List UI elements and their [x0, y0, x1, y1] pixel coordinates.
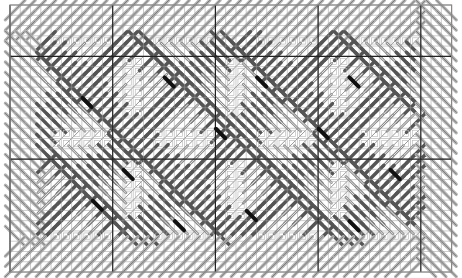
border-stitch-outline	[5, 237, 25, 257]
motif-dark-stitch	[47, 42, 65, 60]
border-stitch-outline	[437, 11, 457, 31]
motif-dark-stitch	[109, 145, 127, 163]
border-stitch-outline	[139, 257, 159, 277]
border-stitch-outline	[129, 257, 149, 277]
accent-stitch	[349, 221, 358, 230]
motif-dark-stitch	[222, 217, 240, 235]
motif-dark-stitch	[119, 114, 137, 132]
motif-dark-stitch	[170, 165, 188, 183]
border-stitch-outline	[5, 0, 25, 20]
motif-dark-stitch	[37, 114, 55, 132]
motif-dark-stitch	[88, 93, 106, 111]
motif-dark-stitch	[324, 124, 342, 142]
motif-dark-stitch	[345, 134, 363, 152]
accent-stitch	[175, 221, 184, 230]
motif-dark-stitch	[150, 217, 168, 235]
motif-dark-stitch	[386, 175, 404, 193]
motif-dark-stitch	[47, 52, 65, 70]
motif-dark-stitch	[78, 73, 96, 91]
border-stitch-outline	[437, 247, 457, 267]
border-stitch-outline	[108, 257, 128, 277]
motif-dark-stitch	[78, 83, 96, 101]
border-stitch-outline	[437, 144, 457, 164]
border-stitch-outline	[334, 257, 354, 277]
motif-dark-stitch	[355, 217, 373, 235]
border-stitch-outline	[159, 257, 179, 277]
motif-dark-stitch	[109, 104, 127, 122]
motif-dark-stitch	[263, 63, 281, 81]
border-stitch-outline	[88, 257, 108, 277]
border-stitch-outline	[437, 72, 457, 92]
motif-dark-stitch	[68, 73, 86, 91]
motif-dark-stitch	[201, 206, 219, 224]
border-stitch-outline	[16, 257, 36, 277]
motif-dark-stitch	[252, 114, 270, 132]
border-stitch-outline	[437, 41, 457, 61]
border-stitch-outline	[385, 257, 405, 277]
stitch-chart	[0, 0, 462, 278]
border-stitch-outline	[355, 257, 375, 277]
border-stitch-outline	[180, 257, 200, 277]
motif-dark-stitch	[314, 145, 332, 163]
motif-dark-stitch	[355, 145, 373, 163]
motif-dark-stitch	[314, 104, 332, 122]
border-stitch-outline	[303, 257, 323, 277]
border-stitch-outline	[26, 257, 46, 277]
motif-dark-stitch	[160, 165, 178, 183]
border-stitch-outline	[437, 62, 457, 82]
border-stitch-outline	[67, 257, 87, 277]
border-stitch-outline	[139, 21, 159, 41]
motif-dark-stitch	[211, 206, 229, 224]
motif-dark-stitch	[324, 114, 342, 132]
motif-dark-stitch	[283, 83, 301, 101]
border-stitch-outline	[437, 175, 457, 195]
border-stitch-outline	[437, 257, 457, 277]
motif-dark-stitch	[293, 83, 311, 101]
motif-dark-stitch	[304, 93, 322, 111]
motif-dark-stitch	[201, 196, 219, 214]
motif-dark-stitch	[88, 83, 106, 101]
border-stitch-outline	[262, 257, 282, 277]
border-stitch-outline	[118, 257, 138, 277]
border-stitch-outline	[355, 21, 375, 41]
motif-dark-stitch	[263, 52, 281, 70]
border-stitch-outline	[437, 83, 457, 103]
border-stitch-outline	[437, 93, 457, 113]
border-stitch-outline	[293, 257, 313, 277]
motif-dark-stitch	[57, 63, 75, 81]
motif-dark-stitch	[139, 217, 157, 235]
border-stitch-outline	[272, 257, 292, 277]
motif-dark-stitch	[68, 63, 86, 81]
motif-dark-stitch	[211, 52, 229, 70]
motif-dark-stitch	[191, 186, 209, 204]
border-stitch-outline	[46, 257, 66, 277]
motif-dark-stitch	[98, 104, 116, 122]
border-stitch-outline	[344, 257, 364, 277]
border-stitch-outline	[5, 247, 25, 267]
motif-dark-stitch	[304, 104, 322, 122]
motif-dark-stitch	[376, 165, 394, 183]
border-stitch-outline	[149, 21, 169, 41]
motif-dark-stitch	[98, 93, 116, 111]
motif-dark-stitch	[57, 52, 75, 70]
border-stitch-outline	[416, 257, 436, 277]
border-stitch-outline	[437, 113, 457, 133]
border-stitch-outline	[437, 103, 457, 123]
border-stitch-outline	[283, 257, 303, 277]
motif-dark-stitch	[386, 186, 404, 204]
border-stitch-outline	[36, 257, 56, 277]
border-stitch-outline	[437, 226, 457, 246]
motif-dark-stitch	[314, 155, 332, 173]
border-stitch-outline	[231, 257, 251, 277]
motif-dark-stitch	[150, 145, 168, 163]
border-stitch-outline	[221, 21, 241, 41]
motif-dark-stitch	[139, 134, 157, 152]
motif-dark-stitch	[232, 32, 250, 50]
border-stitch-outline	[437, 237, 457, 257]
border-stitch-outline	[437, 196, 457, 216]
motif-dark-stitch	[252, 52, 270, 70]
border-stitch-outline	[437, 31, 457, 51]
motif-dark-stitch	[396, 186, 414, 204]
motif-dark-stitch	[335, 134, 353, 152]
border-stitch-outline	[5, 11, 25, 31]
